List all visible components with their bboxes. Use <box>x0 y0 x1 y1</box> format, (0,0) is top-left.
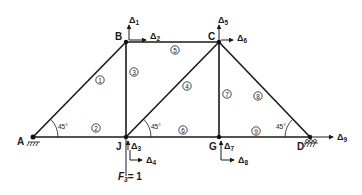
angle-arc-a <box>51 119 58 137</box>
dof-label-2: Δ2 <box>150 31 160 42</box>
member-label-2: 2 <box>92 124 100 132</box>
member-label-1: 1 <box>96 76 104 84</box>
node-c <box>217 40 221 44</box>
svg-text:1: 1 <box>98 77 102 84</box>
member-labels: 1 2 3 4 5 6 7 8 <box>92 46 262 135</box>
angle-label-d: 45° <box>276 123 286 130</box>
member-8 <box>219 42 310 137</box>
dof-label-9: Δ9 <box>337 132 347 143</box>
angle-arc-j <box>144 119 151 137</box>
member-label-6: 6 <box>179 126 187 134</box>
angle-label-j: 45° <box>151 123 161 130</box>
svg-text:8: 8 <box>256 93 260 100</box>
load-label: F3= 1 <box>118 171 142 183</box>
node-label-j: J <box>116 141 122 152</box>
node-label-c: C <box>208 31 215 42</box>
svg-text:9: 9 <box>254 128 258 135</box>
svg-text:4: 4 <box>185 83 189 90</box>
node-b <box>124 40 128 44</box>
svg-text:5: 5 <box>173 47 177 54</box>
node-label-a: A <box>17 136 24 147</box>
dof-label-5: Δ5 <box>218 15 228 26</box>
angle-label-a: 45° <box>58 123 68 130</box>
dof-label-4: Δ4 <box>146 155 156 166</box>
member-label-3: 3 <box>130 68 138 76</box>
member-label-8: 8 <box>254 92 262 100</box>
dof-label-8: Δ8 <box>238 155 248 166</box>
dof-label-3: Δ3 <box>131 141 141 152</box>
member-label-5: 5 <box>171 46 179 54</box>
member-label-7: 7 <box>223 90 231 98</box>
node-a <box>31 135 36 140</box>
dof-label-7: Δ7 <box>224 141 234 152</box>
member-1 <box>33 42 126 137</box>
node-d <box>308 135 312 139</box>
support-d-roller <box>304 140 318 148</box>
svg-text:6: 6 <box>181 127 185 134</box>
truss-diagram: 1 2 3 4 5 6 7 8 <box>0 0 362 195</box>
dof-label-6: Δ6 <box>237 33 247 44</box>
svg-text:7: 7 <box>225 91 229 98</box>
node-g <box>217 135 221 139</box>
node-label-d: D <box>297 141 304 152</box>
member-label-4: 4 <box>183 82 191 90</box>
member-label-9: 9 <box>252 127 260 135</box>
svg-text:3: 3 <box>132 69 136 76</box>
member-4 <box>126 42 219 137</box>
svg-text:2: 2 <box>94 125 98 132</box>
dof-label-1: Δ1 <box>129 15 139 26</box>
node-label-g: G <box>209 141 217 152</box>
angle-arc-d <box>285 119 293 137</box>
members <box>33 42 310 137</box>
support-a-pin <box>27 142 40 146</box>
node-label-b: B <box>115 31 122 42</box>
